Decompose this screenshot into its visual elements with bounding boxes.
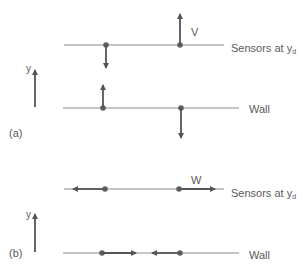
wall-label-b: Wall — [249, 250, 270, 261]
velocity-label-v: V — [191, 27, 198, 38]
panel-b — [35, 186, 239, 256]
wall-label-a: Wall — [249, 104, 270, 115]
panel-label-b: (b) — [9, 248, 22, 259]
sensor-line-subscript-b: d — [292, 193, 296, 200]
sensor-line-subscript-a: d — [292, 48, 296, 55]
sensor-line-label-a: Sensors at yd — [231, 43, 296, 55]
sensor-line-label-text-a: Sensors at y — [231, 42, 292, 54]
panel-label-a: (a) — [9, 128, 22, 139]
sensor-line-label-text-b: Sensors at y — [231, 187, 292, 199]
velocity-label-w: W — [191, 175, 201, 186]
y-axis-label-b: y — [26, 210, 31, 220]
sensor-line-label-b: Sensors at yd — [231, 188, 296, 200]
diagram-canvas — [0, 0, 303, 271]
panel-a — [35, 14, 239, 138]
y-axis-label-a: y — [26, 64, 31, 74]
